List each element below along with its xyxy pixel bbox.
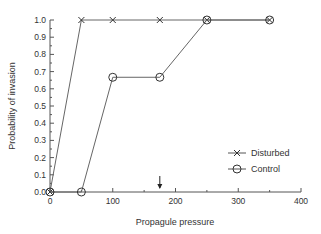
arrow-annotation-icon — [157, 176, 162, 189]
series-disturbed — [47, 17, 273, 195]
x-tick-label: 400 — [294, 196, 308, 206]
x-tick-label: 100 — [106, 196, 120, 206]
y-tick-label: 0.8 — [34, 49, 46, 59]
legend: DisturbedControl — [228, 148, 290, 174]
x-tick-label: 200 — [168, 196, 182, 206]
y-tick-label: 0.3 — [34, 135, 46, 145]
y-tick-label: 0.1 — [34, 170, 46, 180]
x-tick-label: 300 — [231, 196, 245, 206]
series-line — [50, 20, 270, 192]
y-axis: 0.00.10.20.30.40.50.60.70.80.91.0 — [34, 15, 54, 197]
x-tick-label: 0 — [48, 196, 53, 206]
y-tick-label: 0.0 — [34, 187, 46, 197]
legend-label-disturbed: Disturbed — [251, 148, 290, 158]
x-axis: 0100200300400 — [48, 188, 309, 206]
y-tick-label: 0.9 — [34, 32, 46, 42]
chart: 0.00.10.20.30.40.50.60.70.80.91.0 010020… — [0, 0, 321, 234]
y-tick-label: 0.2 — [34, 153, 46, 163]
y-tick-label: 0.4 — [34, 118, 46, 128]
x-axis-label: Propagule pressure — [136, 217, 215, 227]
y-axis-label: Probability of invasion — [7, 62, 17, 150]
y-tick-label: 0.6 — [34, 84, 46, 94]
series-line — [50, 20, 270, 192]
y-tick-label: 0.5 — [34, 101, 46, 111]
legend-label-control: Control — [251, 164, 280, 174]
y-tick-label: 1.0 — [34, 15, 46, 25]
y-tick-label: 0.7 — [34, 67, 46, 77]
